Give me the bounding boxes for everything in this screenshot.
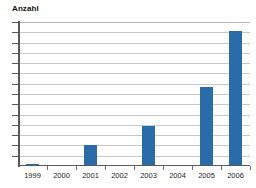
x-axis-tick: [163, 166, 164, 170]
x-axis-label-1999: 1999: [18, 171, 47, 181]
x-axis-tick: [76, 166, 77, 170]
x-axis-labels: 19992000200120022003200420052006: [18, 171, 250, 185]
x-axis-tick: [105, 166, 106, 170]
x-axis-label-2004: 2004: [163, 171, 192, 181]
bar-2006: [229, 31, 242, 166]
x-axis-tick: [250, 166, 251, 170]
bar-series: [18, 22, 250, 166]
x-axis-ticks: [18, 166, 250, 170]
x-axis-label-2000: 2000: [47, 171, 76, 181]
x-axis-tick: [221, 166, 222, 170]
x-axis-label-2002: 2002: [105, 171, 134, 181]
x-axis-tick: [192, 166, 193, 170]
bar-2001: [84, 145, 97, 166]
x-axis-tick: [134, 166, 135, 170]
x-axis-label-2005: 2005: [192, 171, 221, 181]
bar-2005: [200, 87, 213, 166]
x-axis-label-2003: 2003: [134, 171, 163, 181]
x-axis-label-2001: 2001: [76, 171, 105, 181]
chart-screenshot: Anzahl 19992000200120022003200420052006: [0, 0, 256, 188]
bar-2003: [142, 126, 155, 166]
x-axis-label-2006: 2006: [221, 171, 250, 181]
x-axis-tick: [47, 166, 48, 170]
chart-title: Anzahl: [12, 3, 39, 14]
